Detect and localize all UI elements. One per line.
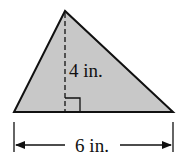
base-label: 6 in.: [75, 135, 109, 156]
arrow-right-icon: [162, 141, 172, 149]
triangle-diagram: 4 in. 6 in.: [0, 0, 180, 156]
arrow-left-icon: [15, 141, 25, 149]
height-label: 4 in.: [69, 60, 103, 81]
